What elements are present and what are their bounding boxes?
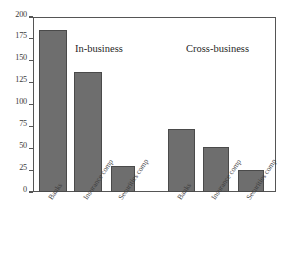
y-axis: 0255075100125150175200 — [0, 17, 33, 192]
y-axis-tick-label: 100 — [15, 98, 27, 106]
y-axis-tick-label: 200 — [15, 11, 27, 19]
bar-chart-figure: 0255075100125150175200 In-business Cross… — [0, 0, 287, 261]
group-label-cross-business: Cross-business — [186, 44, 249, 55]
y-axis-tick-label: 175 — [15, 32, 27, 40]
y-axis-tick-label: 50 — [19, 142, 27, 150]
y-axis-tick-label: 150 — [15, 54, 27, 62]
y-axis-tick-label: 125 — [15, 76, 27, 84]
bar-in-business-banks[interactable] — [39, 30, 67, 192]
y-axis-tick-label: 25 — [19, 164, 27, 172]
bar-cross-business-banks[interactable] — [168, 129, 195, 192]
y-axis-tick-label: 0 — [23, 186, 27, 194]
group-label-in-business: In-business — [75, 44, 123, 55]
y-axis-tick-label: 75 — [19, 120, 27, 128]
